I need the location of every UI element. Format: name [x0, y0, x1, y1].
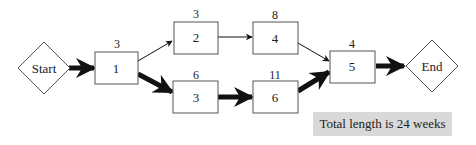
- edge-6-5: [298, 72, 329, 91]
- total-length-note: Total length is 24 weeks: [313, 112, 452, 136]
- node-5: 4 5: [330, 37, 375, 83]
- node-start: Start: [18, 42, 70, 94]
- node-5-duration: 4: [349, 37, 355, 51]
- node-end: End: [406, 40, 458, 92]
- node-2-label: 2: [193, 30, 200, 45]
- node-4-duration: 8: [272, 8, 278, 22]
- node-1: 3 1: [95, 37, 138, 84]
- node-1-label: 1: [113, 61, 120, 76]
- total-length-text: Total length is 24 weeks: [319, 116, 445, 132]
- node-3-duration: 6: [193, 68, 199, 82]
- node-4-label: 4: [272, 31, 279, 46]
- edge-1-3: [138, 74, 172, 92]
- edge-4-5: [298, 43, 329, 61]
- node-2-duration: 3: [193, 7, 199, 21]
- node-start-label: Start: [32, 61, 57, 76]
- node-3: 6 3: [173, 68, 218, 113]
- node-1-duration: 3: [114, 37, 120, 51]
- node-5-label: 5: [349, 59, 356, 74]
- node-3-label: 3: [193, 90, 200, 105]
- node-2: 3 2: [174, 7, 218, 54]
- node-4: 8 4: [253, 8, 298, 54]
- node-6: 11 6: [253, 68, 298, 113]
- edge-1-2: [138, 41, 172, 61]
- node-end-label: End: [422, 59, 443, 74]
- node-6-duration: 11: [269, 68, 281, 82]
- node-6-label: 6: [272, 90, 279, 105]
